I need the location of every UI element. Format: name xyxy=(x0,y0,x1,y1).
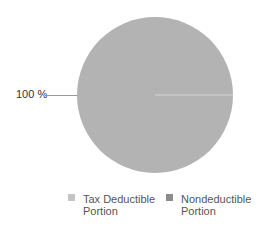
pie-chart: 100 % Tax Deductible Portion Nondeductib… xyxy=(0,0,259,229)
legend-label-line1: Tax Deductible xyxy=(83,193,163,205)
legend-label-line2: Portion xyxy=(181,205,259,217)
slice-percent-label: 100 % xyxy=(16,88,47,100)
legend-swatch-icon xyxy=(68,194,75,201)
label-leader-line xyxy=(45,95,77,96)
legend-label-line2: Portion xyxy=(83,205,163,217)
legend-swatch-icon xyxy=(166,194,173,201)
legend-label-line1: Nondeductible xyxy=(181,193,259,205)
